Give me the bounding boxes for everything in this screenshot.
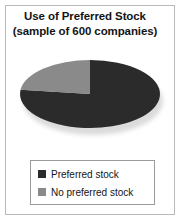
chart-title-line-2: (sample of 600 companies): [6, 24, 164, 39]
pie-chart-svg: [10, 50, 170, 150]
chart-title-line-1: Use of Preferred Stock: [6, 9, 164, 24]
legend-swatch-no-preferred-stock: [38, 188, 46, 196]
pie-chart: [10, 50, 170, 150]
chart-title: Use of Preferred Stock (sample of 600 co…: [6, 9, 164, 39]
figure-root: Use of Preferred Stock (sample of 600 co…: [0, 0, 184, 224]
legend-label-no-preferred-stock: No preferred stock: [51, 187, 133, 198]
pie-slice-no-preferred-stock: [21, 60, 90, 94]
legend-swatch-preferred-stock: [38, 170, 46, 178]
legend-item-preferred-stock: Preferred stock: [38, 165, 154, 183]
chart-legend: Preferred stock No preferred stock: [30, 160, 155, 205]
legend-label-preferred-stock: Preferred stock: [51, 169, 119, 180]
legend-item-no-preferred-stock: No preferred stock: [38, 183, 154, 201]
pie-slice-group: [20, 60, 160, 128]
